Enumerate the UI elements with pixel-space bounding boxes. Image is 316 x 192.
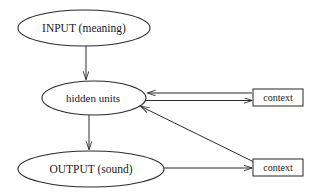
node-hidden-units[interactable]: hidden units — [42, 81, 146, 115]
diagram-canvas: INPUT (meaning) hidden units OUTPUT (sou… — [0, 0, 316, 192]
node-input[interactable]: INPUT (meaning) — [18, 10, 150, 46]
context-upper-label: context — [263, 92, 293, 103]
edge-context-lower-to-hidden — [141, 107, 256, 164]
hidden-units-label: hidden units — [66, 92, 120, 104]
input-label: INPUT (meaning) — [42, 22, 126, 35]
diagram-svg: INPUT (meaning) hidden units OUTPUT (sou… — [0, 0, 316, 192]
node-context-lower[interactable]: context — [253, 159, 303, 176]
node-output[interactable]: OUTPUT (sound) — [18, 151, 164, 187]
output-label: OUTPUT (sound) — [49, 163, 132, 176]
node-context-upper[interactable]: context — [253, 89, 303, 106]
context-lower-label: context — [263, 162, 293, 173]
